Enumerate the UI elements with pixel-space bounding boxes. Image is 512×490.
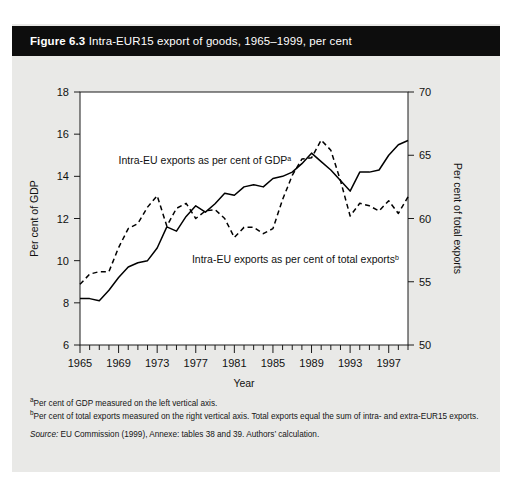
y-axis-tick-label-18: 18 [57,86,69,98]
x-axis-tick-label-1981: 1981 [222,357,246,369]
x-axis-tick-label-1993: 1993 [338,357,362,369]
source-text: EU Commission (1999), Annexe: tables 38 … [61,430,320,439]
y-axis-title: Per cent of GDP [28,180,40,256]
y-axis-tick-label-6: 6 [63,339,69,351]
footnote-a-text: Per cent of GDP measured on the left ver… [34,399,218,408]
source-label: Source: [30,430,58,439]
chart-annotation-gdp: Intra-EU exports as per cent of GDPa [119,154,292,166]
figure-source: Source: EU Commission (1999), Annexe: ta… [30,429,490,441]
x-axis-tick-label-1985: 1985 [261,357,285,369]
y-axis-tick-label-12: 12 [57,213,69,225]
y2-axis-tick-label-65: 65 [419,149,431,161]
y-axis-tick-label-14: 14 [57,170,69,182]
y2-axis-tick-label-70: 70 [419,86,431,98]
figure-title-bar: Figure 6.3 Intra-EUR15 export of goods, … [12,26,500,56]
x-axis-tick-label-1977: 1977 [184,357,208,369]
y2-axis-tick-label-55: 55 [419,276,431,288]
footnote-a: aPer cent of GDP measured on the left ve… [30,398,490,410]
y-axis-tick-label-8: 8 [63,297,69,309]
y-axis-tick-label-10: 10 [57,255,69,267]
figure-notes: aPer cent of GDP measured on the left ve… [30,398,490,449]
y2-axis-tick-label-60: 60 [419,213,431,225]
x-axis-tick-label-1973: 1973 [145,357,169,369]
x-axis-tick-label-1997: 1997 [376,357,400,369]
footnote-b-text: Per cent of total exports measured on th… [34,412,479,421]
x-axis-tick-label-1969: 1969 [106,357,130,369]
y-axis-tick-label-16: 16 [57,128,69,140]
x-axis-tick-label-1989: 1989 [299,357,323,369]
figure-title: Intra-EUR15 export of goods, 1965–1999, … [89,35,352,47]
chart-annotation-total-exports: Intra-EU exports as per cent of total ex… [192,253,399,265]
figure-page: Figure 6.3 Intra-EUR15 export of goods, … [0,0,512,490]
footnote-b: bPer cent of total exports measured on t… [30,411,490,423]
x-axis-tick-label-1965: 1965 [68,357,92,369]
y2-axis-tick-label-50: 50 [419,339,431,351]
chart-area: 6810121416185055606570196519691973197719… [12,60,500,390]
x-axis-title: Year [233,377,255,389]
plot-frame [80,92,408,345]
figure-number: Figure 6.3 [30,35,85,47]
y2-axis-title: Per cent of total exports [452,163,464,274]
line-chart: 6810121416185055606570196519691973197719… [12,60,500,390]
